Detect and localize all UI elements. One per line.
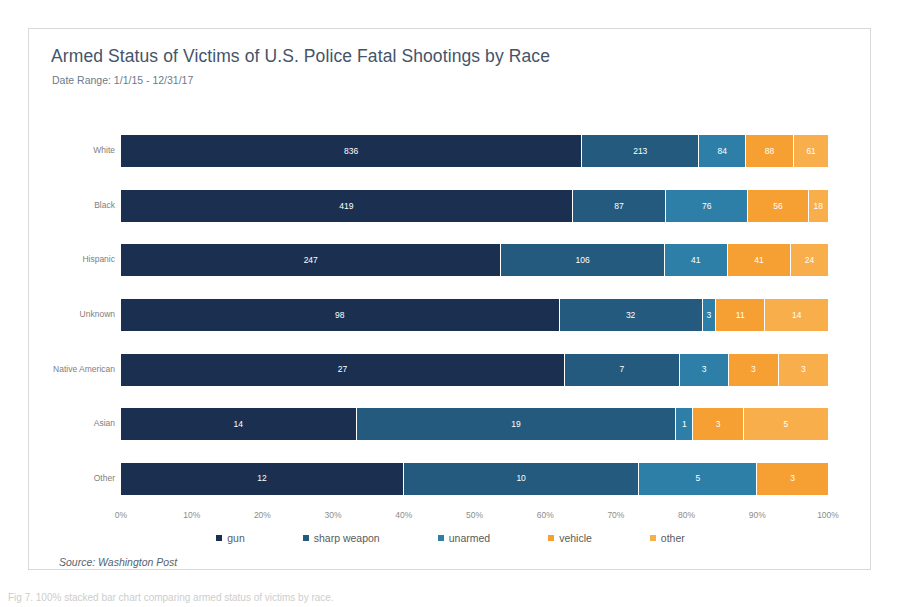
bar-segment-value: 3 bbox=[751, 365, 756, 374]
bar-row: Other121053 bbox=[121, 463, 828, 495]
x-axis-tick: 70% bbox=[607, 510, 624, 520]
category-label: Hispanic bbox=[0, 254, 115, 264]
bar-row: Asian1419135 bbox=[121, 408, 828, 440]
bar-row: Black41987765618 bbox=[121, 190, 828, 222]
bar-segment-value: 84 bbox=[717, 147, 726, 156]
chart-subtitle: Date Range: 1/1/15 - 12/31/17 bbox=[52, 74, 193, 86]
bar-segment: 12 bbox=[121, 463, 404, 495]
bar-segment-value: 12 bbox=[257, 474, 266, 483]
bar-segment-value: 18 bbox=[814, 202, 823, 211]
legend-swatch-icon bbox=[650, 535, 656, 541]
bar-segment: 106 bbox=[501, 244, 664, 276]
bar-segment: 11 bbox=[716, 299, 765, 331]
bar-segment: 3 bbox=[680, 354, 729, 386]
x-axis-tick: 10% bbox=[183, 510, 200, 520]
bar-segment-value: 247 bbox=[304, 256, 318, 265]
legend-item-other[interactable]: other bbox=[650, 532, 685, 544]
bar-segment-value: 7 bbox=[620, 365, 625, 374]
bar-segment: 213 bbox=[582, 135, 699, 167]
bar-segment-value: 61 bbox=[806, 147, 815, 156]
legend-item-vehicle[interactable]: vehicle bbox=[548, 532, 592, 544]
bar-segment-value: 56 bbox=[773, 202, 782, 211]
bar-segment-value: 3 bbox=[801, 365, 806, 374]
bar-segment: 61 bbox=[794, 135, 828, 167]
bar-segment-value: 3 bbox=[702, 365, 707, 374]
bar-segment: 3 bbox=[779, 354, 828, 386]
bar-segment-value: 11 bbox=[736, 311, 745, 320]
legend-swatch-icon bbox=[303, 535, 309, 541]
x-axis-tick: 40% bbox=[395, 510, 412, 520]
figure-caption: Fig 7. 100% stacked bar chart comparing … bbox=[8, 592, 334, 603]
legend-item-unarmed[interactable]: unarmed bbox=[438, 532, 490, 544]
bar-segment: 14 bbox=[765, 299, 828, 331]
bar-segment: 419 bbox=[121, 190, 573, 222]
category-label: Native American bbox=[0, 364, 115, 374]
bar-segment: 41 bbox=[665, 244, 728, 276]
bar-segment-value: 10 bbox=[516, 474, 525, 483]
bar-segment: 88 bbox=[746, 135, 795, 167]
source-note: Source: Washington Post bbox=[59, 556, 177, 568]
bar-segment-value: 24 bbox=[805, 256, 814, 265]
bar-segment-value: 5 bbox=[784, 420, 789, 429]
bar-segment: 87 bbox=[573, 190, 667, 222]
x-axis-tick: 60% bbox=[537, 510, 554, 520]
legend-label: unarmed bbox=[449, 532, 490, 544]
bar-segment: 27 bbox=[121, 354, 565, 386]
legend-item-sharp-weapon[interactable]: sharp weapon bbox=[303, 532, 380, 544]
bar-segment: 76 bbox=[666, 190, 748, 222]
x-axis-tick: 90% bbox=[749, 510, 766, 520]
bar-segment-value: 5 bbox=[696, 474, 701, 483]
bar-segment-value: 3 bbox=[707, 311, 712, 320]
bar-segment-value: 1 bbox=[682, 420, 687, 429]
bar-segment: 7 bbox=[565, 354, 680, 386]
bar-row: White836213848861 bbox=[121, 135, 828, 167]
legend-label: vehicle bbox=[559, 532, 592, 544]
bar-segment: 5 bbox=[744, 408, 828, 440]
bar-segment-value: 98 bbox=[335, 311, 344, 320]
chart-plot-area: White836213848861Black41987765618Hispani… bbox=[121, 124, 828, 506]
legend-label: sharp weapon bbox=[314, 532, 380, 544]
x-axis-tick: 20% bbox=[254, 510, 271, 520]
category-label: Asian bbox=[0, 418, 115, 428]
legend-item-gun[interactable]: gun bbox=[216, 532, 245, 544]
bar-segment: 3 bbox=[693, 408, 744, 440]
bar-segment: 18 bbox=[809, 190, 828, 222]
bar-segment: 56 bbox=[748, 190, 808, 222]
bar-segment: 32 bbox=[560, 299, 703, 331]
bar-segment-value: 14 bbox=[234, 420, 243, 429]
bar-segment: 84 bbox=[699, 135, 745, 167]
legend-swatch-icon bbox=[548, 535, 554, 541]
bar-segment: 98 bbox=[121, 299, 560, 331]
x-axis-tick: 30% bbox=[325, 510, 342, 520]
bar-segment: 10 bbox=[404, 463, 640, 495]
bar-segment: 3 bbox=[729, 354, 778, 386]
screenshot-root: Armed Status of Victims of U.S. Police F… bbox=[0, 0, 901, 607]
chart-card: Armed Status of Victims of U.S. Police F… bbox=[28, 28, 871, 570]
category-label: Other bbox=[0, 473, 115, 483]
bar-segment: 24 bbox=[791, 244, 828, 276]
bar-segment-value: 213 bbox=[633, 147, 647, 156]
bar-segment-value: 19 bbox=[511, 420, 520, 429]
bar-segment-value: 27 bbox=[338, 365, 347, 374]
bar-segment-value: 3 bbox=[716, 420, 721, 429]
bar-row: Hispanic247106414124 bbox=[121, 244, 828, 276]
x-axis: 0%10%20%30%40%50%60%70%80%90%100% bbox=[121, 510, 828, 526]
bar-segment: 836 bbox=[121, 135, 582, 167]
bar-segment: 41 bbox=[728, 244, 791, 276]
chart-title: Armed Status of Victims of U.S. Police F… bbox=[51, 46, 550, 67]
category-label: White bbox=[0, 145, 115, 155]
x-axis-tick: 100% bbox=[817, 510, 839, 520]
bar-segment-value: 419 bbox=[339, 202, 353, 211]
bar-segment: 247 bbox=[121, 244, 501, 276]
bar-segment-value: 14 bbox=[792, 311, 801, 320]
bar-segment-value: 76 bbox=[702, 202, 711, 211]
bar-segment-value: 87 bbox=[614, 202, 623, 211]
bar-segment-value: 41 bbox=[691, 256, 700, 265]
bar-segment-value: 88 bbox=[765, 147, 774, 156]
bar-segment: 5 bbox=[639, 463, 757, 495]
bar-segment-value: 106 bbox=[575, 256, 589, 265]
bar-segment-value: 3 bbox=[790, 474, 795, 483]
bar-segment: 3 bbox=[703, 299, 716, 331]
legend-swatch-icon bbox=[438, 535, 444, 541]
x-axis-tick: 0% bbox=[115, 510, 127, 520]
